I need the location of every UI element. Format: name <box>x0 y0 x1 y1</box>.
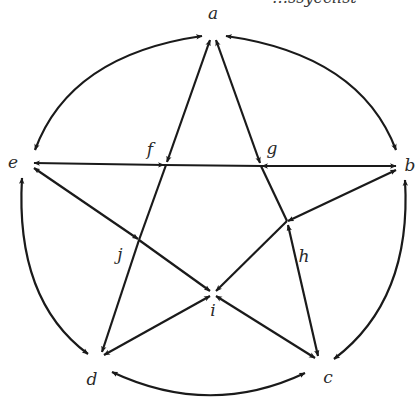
edge-j-i <box>139 240 210 291</box>
arc-a-b <box>226 36 396 150</box>
node-label-i: i <box>210 300 215 320</box>
node-label-d: d <box>87 369 98 389</box>
edge-h-c <box>288 225 318 356</box>
edge-h-i <box>216 221 287 291</box>
node-label-a: a <box>208 3 218 23</box>
edge-f-j <box>139 165 166 240</box>
arc-d-c <box>112 372 305 395</box>
node-label-f: f <box>145 139 156 159</box>
edge-a-f <box>167 40 210 162</box>
arc-e-d <box>21 178 88 354</box>
arc-b-c <box>334 180 406 359</box>
edge-i-c <box>216 296 315 358</box>
node-label-j: j <box>113 244 123 264</box>
edge-e-f <box>34 163 164 165</box>
edge-b-h <box>288 170 396 221</box>
node-label-b: b <box>405 155 416 175</box>
node-label-h: h <box>299 246 310 266</box>
edge-f-g <box>164 165 262 166</box>
node-label-g: g <box>267 138 278 158</box>
edge-g-h <box>261 166 287 221</box>
edge-i-d <box>104 296 210 355</box>
node-label-e: e <box>8 152 18 172</box>
edge-e-j <box>34 168 138 239</box>
cropped-header-text: …ssyeclist <box>272 0 357 7</box>
pentagram-graph-diagram: …ssyeclist a b c d e f g h i j <box>0 0 418 400</box>
edge-a-g <box>216 40 260 163</box>
node-label-c: c <box>323 367 333 387</box>
